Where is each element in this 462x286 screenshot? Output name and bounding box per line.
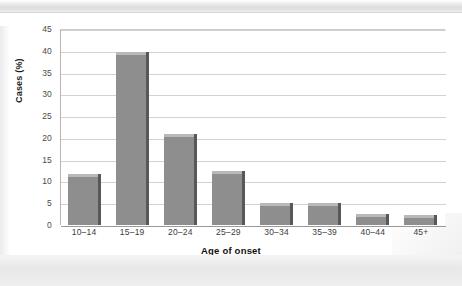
bar	[260, 203, 293, 225]
bar-slot	[349, 29, 397, 225]
bar	[404, 215, 437, 225]
x-axis-tick-label: 25–29	[204, 227, 252, 237]
bar-top-highlight	[164, 134, 194, 137]
bar-slot	[108, 29, 156, 225]
bar-top-highlight	[356, 214, 386, 217]
y-axis-tick-label: 45	[42, 24, 52, 34]
bar-slot	[397, 29, 445, 225]
y-axis-tick-label: 20	[42, 133, 52, 143]
bar	[116, 52, 149, 225]
x-axis-tick-label: 20–24	[156, 227, 204, 237]
x-axis-tick-label: 45+	[397, 227, 445, 237]
bar-slot	[204, 29, 252, 225]
bar-slot	[253, 29, 301, 225]
bar-top-highlight	[68, 174, 98, 177]
bar-top-highlight	[308, 203, 338, 206]
y-axis-tick-label: 35	[42, 68, 52, 78]
bar	[164, 134, 197, 225]
bar	[356, 214, 389, 225]
bar	[68, 174, 101, 225]
figure-area: Cases (%) 051015202530354045 10–1415–192…	[0, 13, 462, 255]
bar-slot	[156, 29, 204, 225]
bar-top-highlight	[116, 52, 146, 55]
x-axis-tick-labels: 10–1415–1920–2425–2930–3435–3940–4445+	[60, 227, 445, 243]
x-axis-tick-label: 30–34	[253, 227, 301, 237]
bar	[212, 171, 245, 225]
y-axis-tick-label: 0	[47, 220, 52, 230]
x-axis-tick-label: 40–44	[349, 227, 397, 237]
y-axis-tick-label: 25	[42, 111, 52, 121]
y-axis-tick-label: 30	[42, 89, 52, 99]
y-axis-tick-label: 5	[47, 198, 52, 208]
y-axis-tick-label: 40	[42, 46, 52, 56]
x-axis-tick-label: 10–14	[60, 227, 108, 237]
y-axis-tick-label: 10	[42, 176, 52, 186]
figure-caption-bar: Figure 14.17	[0, 255, 462, 286]
x-axis-tick-label: 35–39	[301, 227, 349, 237]
y-axis-tick-label: 15	[42, 155, 52, 165]
bar-series	[60, 29, 445, 225]
bar-slot	[301, 29, 349, 225]
bar-top-highlight	[212, 171, 242, 174]
y-axis-tick-labels: 051015202530354045	[0, 29, 58, 225]
bar-top-highlight	[404, 215, 434, 218]
x-axis-tick-label: 15–19	[108, 227, 156, 237]
bar	[308, 203, 341, 225]
bar-slot	[60, 29, 108, 225]
bar-top-highlight	[260, 203, 290, 206]
